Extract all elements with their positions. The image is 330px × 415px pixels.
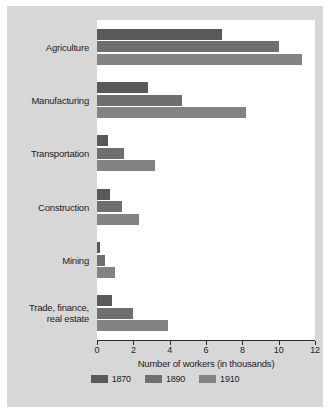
bar-1870-transportation bbox=[97, 135, 108, 146]
legend-swatch-icon bbox=[199, 375, 216, 383]
legend-label: 1910 bbox=[220, 374, 239, 384]
bar-1890-manufacturing bbox=[97, 95, 182, 106]
category-label: Mining bbox=[62, 255, 89, 266]
category-label: Construction bbox=[38, 201, 89, 212]
bar-1890-trade bbox=[97, 308, 133, 319]
legend-entry-1890[interactable]: 1890 bbox=[145, 374, 185, 384]
plot-area bbox=[97, 20, 315, 340]
category-label: Manufacturing bbox=[31, 95, 89, 106]
bar-1910-trade bbox=[97, 320, 168, 331]
x-tick-label: 4 bbox=[167, 345, 172, 355]
bar-1910-construction bbox=[97, 214, 139, 225]
category-label: Trade, finance, real estate bbox=[29, 302, 89, 324]
x-tick-label: 10 bbox=[274, 345, 284, 355]
bar-1910-manufacturing bbox=[97, 107, 246, 118]
category-label: Agriculture bbox=[46, 41, 89, 52]
bar-1870-agriculture bbox=[97, 29, 222, 40]
x-tick-label: 8 bbox=[240, 345, 245, 355]
category-label: Transportation bbox=[31, 148, 89, 159]
bar-1870-trade bbox=[97, 295, 112, 306]
bar-1910-mining bbox=[97, 267, 115, 278]
legend-swatch-icon bbox=[91, 375, 108, 383]
x-tick-label: 12 bbox=[310, 345, 320, 355]
x-tick-label: 6 bbox=[204, 345, 209, 355]
bar-1890-agriculture bbox=[97, 41, 279, 52]
legend-label: 1890 bbox=[166, 374, 185, 384]
bar-1890-construction bbox=[97, 201, 122, 212]
x-tick-label: 0 bbox=[95, 345, 100, 355]
bar-1870-mining bbox=[97, 242, 100, 253]
bar-1870-manufacturing bbox=[97, 82, 148, 93]
legend-entry-1870[interactable]: 1870 bbox=[91, 374, 131, 384]
chart-legend: 187018901910 bbox=[7, 374, 323, 384]
x-axis-title: Number of workers (in thousands) bbox=[97, 358, 315, 369]
x-tick-label: 2 bbox=[131, 345, 136, 355]
bar-1890-transportation bbox=[97, 148, 124, 159]
legend-label: 1870 bbox=[112, 374, 131, 384]
bar-1870-construction bbox=[97, 189, 110, 200]
bar-1910-transportation bbox=[97, 160, 155, 171]
legend-entry-1910[interactable]: 1910 bbox=[199, 374, 239, 384]
bar-1910-agriculture bbox=[97, 54, 302, 65]
legend-swatch-icon bbox=[145, 375, 162, 383]
chart-figure: 024681012 Number of workers (in thousand… bbox=[7, 6, 323, 407]
bar-1890-mining bbox=[97, 255, 105, 266]
